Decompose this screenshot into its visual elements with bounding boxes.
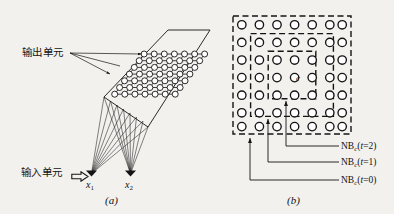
input-to-lattice-lines bbox=[92, 97, 149, 174]
x1-sub: 1 bbox=[90, 184, 94, 192]
leader-line-ring3 bbox=[250, 138, 339, 180]
neighbourhood-label-t1: NBc(t=1) bbox=[341, 157, 376, 169]
input-node-label-x2: x2 bbox=[125, 179, 133, 192]
nb2-prefix: NB bbox=[341, 175, 354, 185]
lattice-nodes bbox=[112, 51, 208, 97]
figure-root: 输出单元 输入单元 x1 x2 (a) c NBc(t=2) NBc(t=1) … bbox=[0, 0, 394, 214]
nb2-close: ) bbox=[373, 175, 376, 185]
input-unit-markers bbox=[86, 171, 136, 177]
panel-a-group bbox=[70, 30, 210, 177]
neighbourhood-label-t0: NBc(t=0) bbox=[341, 175, 376, 187]
figure-canvas bbox=[0, 0, 394, 214]
nb0-prefix: NB bbox=[341, 141, 354, 151]
input-node-label-x1: x1 bbox=[86, 179, 94, 192]
nb1-close: ) bbox=[373, 157, 376, 167]
nb0-close: ) bbox=[373, 141, 376, 151]
panel-a-caption: (a) bbox=[105, 194, 118, 206]
nb1-prefix: NB bbox=[341, 157, 354, 167]
panel-b-caption: (b) bbox=[287, 194, 300, 206]
neighbourhood-grid-nodes bbox=[238, 21, 347, 131]
x2-sub: 2 bbox=[129, 184, 133, 192]
neighbourhood-label-t2: NBc(t=2) bbox=[341, 141, 376, 153]
output-units-label: 输出单元 bbox=[22, 47, 64, 58]
input-units-label: 输入单元 bbox=[21, 167, 63, 178]
center-unit-label: c bbox=[296, 73, 300, 83]
panel-b-group bbox=[233, 16, 351, 180]
output-unit-leader-lines bbox=[70, 53, 142, 74]
